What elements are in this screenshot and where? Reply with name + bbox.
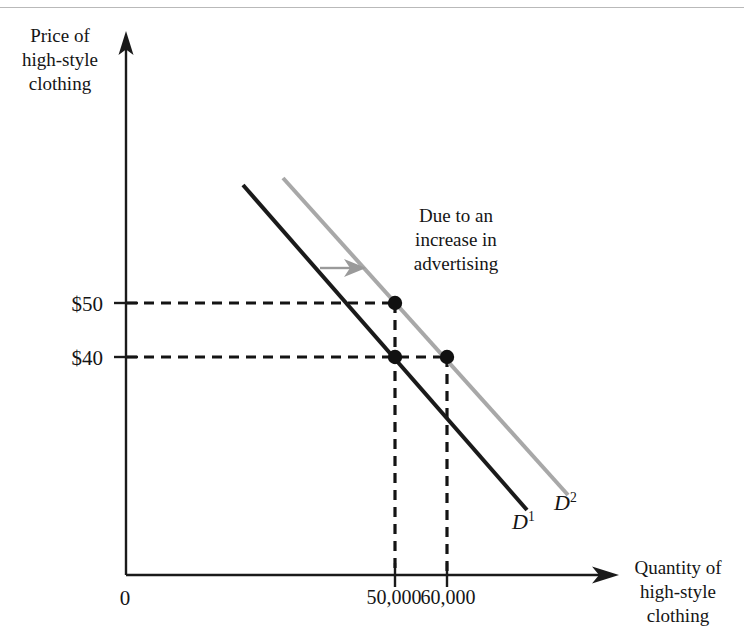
axes-group bbox=[119, 31, 620, 584]
y-axis-title: Price ofhigh-styleclothing bbox=[8, 24, 112, 96]
curve-label-d1-superscript: 1 bbox=[528, 509, 535, 524]
guide-lines bbox=[127, 303, 447, 575]
y-tick-label-40: $40 bbox=[23, 345, 103, 371]
point-price40-qty50000 bbox=[388, 350, 402, 364]
x-axis-title: Quantity ofhigh-styleclothing bbox=[616, 556, 740, 628]
figure-canvas: Price ofhigh-styleclothing Quantity ofhi… bbox=[0, 0, 744, 635]
point-price40-qty60000 bbox=[440, 350, 454, 364]
curve-label-d2-base: D bbox=[554, 490, 570, 515]
y-tick-label-50: $50 bbox=[23, 291, 103, 317]
x-tick-label-60000: 60,000 bbox=[396, 585, 500, 610]
curve-label-d2: D2 bbox=[554, 489, 577, 517]
curve-label-d1: D1 bbox=[512, 508, 535, 536]
curve-label-d1-base: D bbox=[512, 509, 528, 534]
origin-label: 0 bbox=[106, 585, 144, 611]
shift-annotation-text: Due to anincrease inadvertising bbox=[380, 204, 532, 276]
curve-label-d2-superscript: 2 bbox=[570, 490, 577, 505]
point-price50-qty50000 bbox=[388, 296, 402, 310]
